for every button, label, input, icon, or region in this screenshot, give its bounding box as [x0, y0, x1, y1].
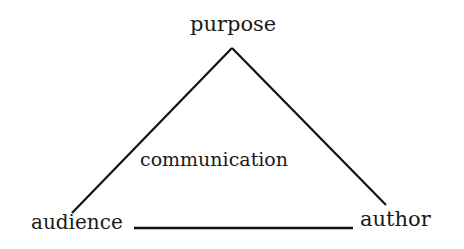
center-label-communication: communication: [140, 150, 288, 169]
edge-purpose-author: [232, 48, 386, 205]
node-purpose: purpose: [190, 14, 276, 35]
communication-triangle-diagram: purpose communication audience author: [0, 0, 464, 249]
node-audience: audience: [31, 212, 123, 232]
node-author: author: [360, 209, 431, 230]
edge-purpose-audience: [72, 48, 232, 213]
